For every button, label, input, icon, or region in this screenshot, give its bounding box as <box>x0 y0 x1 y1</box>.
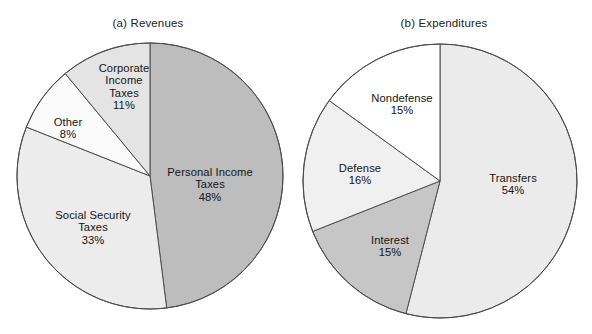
pie-slice-name: Corporate <box>99 62 150 74</box>
pie-slice-percent: 15% <box>371 104 432 116</box>
pie-slice-name: Transfers <box>489 172 537 184</box>
pie-slice-label: Personal IncomeTaxes48% <box>167 166 252 203</box>
pie-slice-name: Personal Income <box>167 166 252 178</box>
pie-slice-label: Transfers54% <box>489 172 537 197</box>
pie-slice-percent: 33% <box>55 234 131 246</box>
pie-slice-label: Defense16% <box>339 162 381 187</box>
pie-slice-name: Social Security <box>55 209 131 221</box>
pie-slice-name: Taxes <box>99 87 150 99</box>
pie-slice-name: Income <box>99 75 150 87</box>
pie-slice-percent: 8% <box>54 128 82 140</box>
panel-revenues: (a) Revenues Personal IncomeTaxes48%Soci… <box>0 0 296 334</box>
pie-chart-figure: (a) Revenues Personal IncomeTaxes48%Soci… <box>0 0 592 334</box>
pie-slice-label: Other8% <box>54 116 82 141</box>
pie-slice-name: Taxes <box>167 179 252 191</box>
pie-slice-name: Nondefense <box>371 92 432 104</box>
pie-slice-percent: 48% <box>167 191 252 203</box>
pie-slice-percent: 16% <box>339 174 381 186</box>
pie-slice-label: Interest15% <box>371 234 409 259</box>
pie-slice-label: Nondefense15% <box>371 92 432 117</box>
pie-slice-percent: 54% <box>489 184 537 196</box>
pie-slice-name: Other <box>54 116 82 128</box>
pie-slice-percent: 15% <box>371 246 409 258</box>
pie-slice-percent: 11% <box>99 99 150 111</box>
pie-slice-name: Interest <box>371 234 409 246</box>
panel-expenditures: (b) Expenditures Transfers54%Interest15%… <box>296 0 592 334</box>
pie-slice-label: Social SecurityTaxes33% <box>55 209 131 246</box>
pie-slice-label: CorporateIncomeTaxes11% <box>99 62 150 112</box>
pie-slice-name: Taxes <box>55 222 131 234</box>
pie-slice-name: Defense <box>339 162 381 174</box>
